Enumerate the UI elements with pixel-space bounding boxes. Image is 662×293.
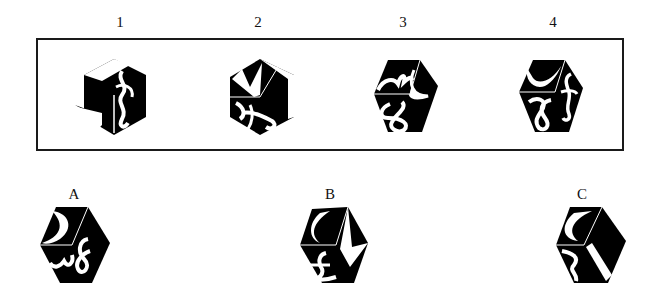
option-b-cube[interactable]: [296, 203, 376, 285]
option-label-a: A: [64, 187, 84, 202]
cube-view-1: [72, 57, 152, 137]
view-label-3: 3: [393, 15, 413, 30]
option-label-c: C: [572, 187, 592, 202]
cube-3-icon: [368, 56, 448, 136]
view-label-1: 1: [110, 15, 130, 30]
cube-view-3: [368, 56, 448, 136]
option-label-b: B: [320, 187, 340, 202]
cube-view-2: [220, 57, 300, 137]
option-a-cube[interactable]: [36, 203, 114, 285]
view-label-2: 2: [248, 15, 268, 30]
view-label-4: 4: [543, 15, 563, 30]
option-b-icon: [296, 203, 376, 285]
cube-4-icon: [515, 56, 595, 136]
cube-1-icon: [72, 57, 152, 137]
option-c-icon: [552, 203, 630, 285]
option-c-cube[interactable]: [552, 203, 630, 285]
cube-2-icon: [220, 57, 300, 137]
option-a-icon: [36, 203, 114, 285]
cube-view-4: [515, 56, 595, 136]
